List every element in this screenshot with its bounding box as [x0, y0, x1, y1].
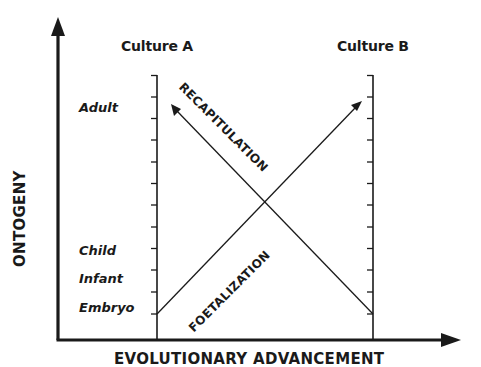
- y-axis-title: ONTOGENY: [11, 170, 29, 267]
- x-axis-title: EVOLUTIONARY ADVANCEMENT: [114, 350, 384, 367]
- y-axis: [51, 17, 65, 340]
- culture-a-scale: [151, 75, 157, 340]
- foetalization-arrowhead-icon: [351, 101, 362, 111]
- diagram-graphics: [0, 0, 481, 367]
- stage-label-adult: Adult: [79, 100, 118, 115]
- culture-b-scale: [367, 75, 373, 340]
- ontogeny-diagram: Culture A Culture B Adult Child Infant E…: [0, 0, 481, 367]
- x-axis-arrow-icon: [441, 333, 461, 347]
- culture-b-label: Culture B: [337, 38, 409, 54]
- stage-label-embryo: Embryo: [79, 300, 135, 315]
- stage-label-infant: Infant: [79, 271, 123, 286]
- foetalization-arrow: [157, 101, 362, 314]
- stage-label-child: Child: [79, 243, 116, 258]
- culture-a-label: Culture A: [121, 38, 193, 54]
- y-axis-arrow-icon: [51, 17, 65, 36]
- recapitulation-arrow: [171, 104, 373, 314]
- x-axis: [57, 333, 462, 347]
